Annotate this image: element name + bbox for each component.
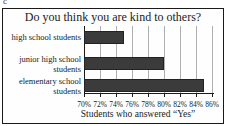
tick-mark	[196, 94, 197, 97]
tick-mark	[84, 94, 85, 97]
category-label-line: high school students	[4, 33, 81, 43]
figure: c Do you think you are kind to others? S…	[0, 0, 226, 126]
tick-mark	[100, 94, 101, 97]
category-label-line: students	[4, 87, 81, 97]
tick-mark	[180, 94, 181, 97]
tick-mark	[132, 94, 133, 97]
bar-1	[84, 31, 124, 44]
category-label-2: junior high schoolstudents	[4, 55, 81, 74]
x-axis-line	[84, 93, 214, 94]
category-label-3: elementary schoolstudents	[4, 77, 81, 96]
category-label-1: high school students	[4, 33, 81, 43]
tick-mark	[164, 94, 165, 97]
x-tick-label: 86%	[201, 100, 223, 109]
category-label-line: students	[4, 65, 81, 75]
corner-mark: c	[3, 0, 7, 6]
tick-mark	[116, 94, 117, 97]
x-axis-title: Students who answered “Yes”	[50, 109, 226, 120]
tick-mark	[212, 94, 213, 97]
bar-2	[84, 57, 164, 70]
bar-3	[84, 79, 204, 92]
tick-mark	[148, 94, 149, 97]
chart-title: Do you think you are kind to others?	[2, 10, 224, 24]
gridline	[212, 26, 213, 93]
